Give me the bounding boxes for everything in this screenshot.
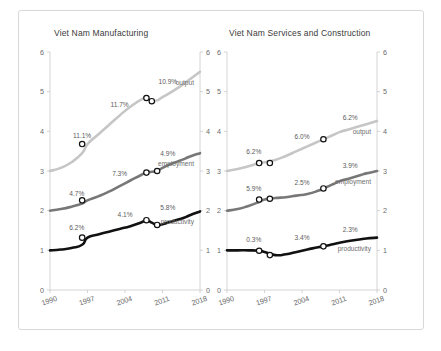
x-tick-label: 2011 [153, 294, 170, 307]
data-point-marker [144, 170, 149, 175]
line-series-output [50, 72, 200, 171]
data-point-marker [267, 196, 272, 201]
growth-rate-annotation: 2.3% [343, 226, 358, 233]
series-label-productivity: productivity [338, 245, 372, 253]
x-tick-label: 1990 [217, 294, 235, 308]
growth-rate-annotation: 6.0% [294, 133, 309, 140]
series-label-output: output [176, 79, 195, 87]
data-point-marker [149, 98, 154, 103]
y-tick-label-right: 0 [383, 286, 387, 295]
series-label-employment: employment [335, 178, 371, 186]
y-tick-label-left: 3 [40, 167, 44, 176]
y-tick-label-right: 4 [383, 127, 387, 136]
y-tick-label-left: 1 [40, 246, 44, 255]
y-tick-label-left: 2 [217, 206, 221, 215]
y-tick-label-left: 4 [217, 127, 221, 136]
data-point-marker [256, 248, 261, 253]
growth-rate-annotation: 3.4% [294, 234, 309, 241]
y-tick-label-left: 5 [40, 87, 44, 96]
growth-rate-annotation: 6.2% [69, 224, 84, 231]
x-tick-label: 1997 [78, 294, 96, 308]
y-tick-label-right: 5 [383, 87, 387, 96]
plot-svg-manufacturing: 001122334455661990199720042011201811.1%1… [28, 0, 213, 320]
growth-rate-annotation: 6.2% [343, 114, 358, 121]
growth-rate-annotation: 11.7% [111, 101, 129, 108]
data-point-marker [321, 186, 326, 191]
x-tick-label: 2018 [367, 294, 385, 308]
y-tick-label-right: 6 [206, 48, 210, 57]
y-tick-label-right: 0 [206, 286, 210, 295]
y-tick-label-right: 4 [206, 127, 210, 136]
growth-rate-annotation: 3.9% [343, 162, 358, 169]
y-tick-label-right: 2 [206, 206, 210, 215]
figure-canvas: Viet Nam Manufacturing 00112233445566199… [0, 0, 441, 351]
y-tick-label-right: 2 [383, 206, 387, 215]
x-tick-label: 1997 [255, 294, 273, 308]
y-tick-label-left: 5 [217, 87, 221, 96]
plot-svg-services: 00112233445566199019972004201120186.2%6.… [213, 0, 413, 320]
y-tick-label-left: 4 [40, 127, 44, 136]
y-tick-label-left: 0 [217, 286, 221, 295]
y-tick-label-right: 1 [206, 246, 210, 255]
growth-rate-annotation: 4.9% [160, 150, 175, 157]
y-tick-label-right: 3 [206, 167, 210, 176]
series-label-employment: employment [158, 160, 194, 168]
data-point-marker [79, 198, 84, 203]
data-point-marker [154, 168, 159, 173]
x-tick-label: 2018 [190, 294, 208, 308]
x-tick-label: 2004 [115, 294, 133, 308]
growth-rate-annotation: 4.7% [69, 190, 84, 197]
y-tick-label-left: 3 [217, 167, 221, 176]
y-tick-label-left: 0 [40, 286, 44, 295]
y-tick-label-left: 6 [40, 48, 44, 57]
y-tick-label-right: 1 [383, 246, 387, 255]
data-point-marker [267, 252, 272, 257]
data-point-marker [321, 244, 326, 249]
series-label-output: output [353, 128, 372, 136]
series-label-productivity: productivity [161, 218, 195, 226]
x-tick-label: 1990 [40, 294, 58, 308]
y-tick-label-left: 2 [40, 206, 44, 215]
data-point-marker [256, 197, 261, 202]
y-tick-label-left: 6 [217, 48, 221, 57]
growth-rate-annotation: 7.3% [112, 170, 127, 177]
data-point-marker [267, 160, 272, 165]
growth-rate-annotation: 0.3% [246, 236, 261, 243]
chart-panel-manufacturing: Viet Nam Manufacturing 00112233445566199… [28, 0, 213, 320]
data-point-marker [144, 95, 149, 100]
data-point-marker [154, 222, 159, 227]
growth-rate-annotation: 2.5% [294, 179, 309, 186]
x-tick-label: 2004 [292, 294, 310, 308]
x-tick-label: 2011 [330, 294, 347, 307]
growth-rate-annotation: 5.8% [160, 204, 175, 211]
data-point-marker [144, 217, 149, 222]
data-point-marker [79, 235, 84, 240]
growth-rate-annotation: 6.2% [246, 148, 261, 155]
growth-rate-annotation: 5.9% [246, 185, 261, 192]
growth-rate-annotation: 10.9% [159, 78, 178, 85]
y-tick-label-right: 6 [383, 48, 387, 57]
growth-rate-annotation: 11.1% [73, 132, 91, 139]
y-tick-label-right: 3 [383, 167, 387, 176]
y-tick-label-right: 5 [206, 87, 210, 96]
chart-panel-services: Viet Nam Services and Construction 00112… [213, 0, 413, 320]
data-point-marker [79, 141, 84, 146]
data-point-marker [321, 137, 326, 142]
data-point-marker [256, 160, 261, 165]
growth-rate-annotation: 4.1% [117, 211, 132, 218]
y-tick-label-left: 1 [217, 246, 221, 255]
